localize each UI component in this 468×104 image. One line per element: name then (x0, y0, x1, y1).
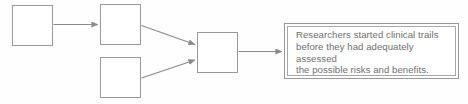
flow-node-2[interactable] (100, 4, 141, 45)
callout-text: Researchers started clinical trails befo… (296, 29, 452, 76)
flowchart-canvas: Researchers started clinical trails befo… (0, 0, 468, 104)
arrow-node2-to-node4 (142, 26, 196, 45)
flow-node-3[interactable] (100, 57, 141, 98)
flow-node-1[interactable] (12, 5, 53, 46)
arrow-node3-to-node4 (142, 60, 196, 78)
flow-node-4[interactable] (197, 32, 238, 73)
